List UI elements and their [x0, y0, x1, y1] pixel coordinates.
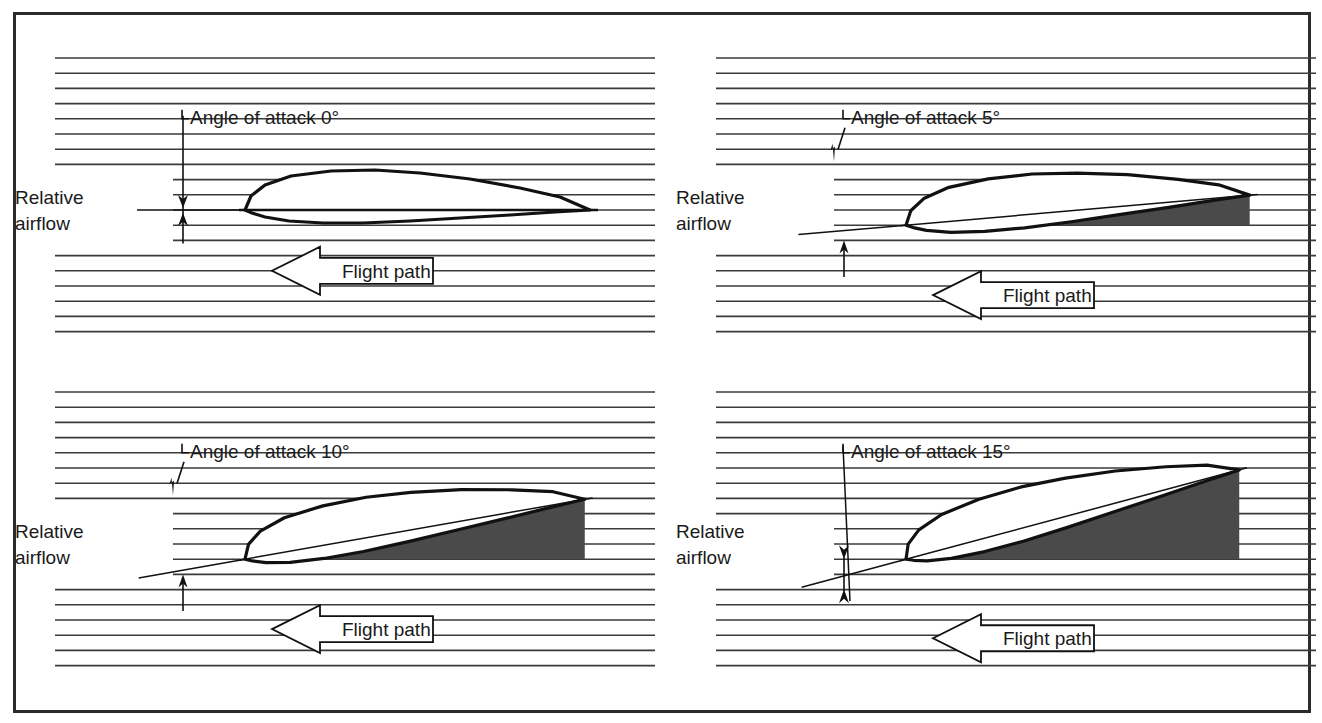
- flight-path-label: Flight path: [342, 619, 431, 640]
- relative-airflow-label-line2: airflow: [676, 547, 731, 568]
- label-hook: [843, 110, 850, 119]
- angle-of-attack-label: Angle of attack 5°: [851, 107, 1000, 128]
- flight-path-label: Flight path: [342, 261, 431, 282]
- angle-leader-arrowhead: [170, 477, 175, 495]
- relative-airflow-label-line1: Relative: [676, 187, 745, 208]
- chord-extension-line: [798, 225, 906, 234]
- aerofoil-section: [245, 170, 590, 223]
- relative-airflow-label-line1: Relative: [15, 187, 84, 208]
- flight-path-label: Flight path: [1003, 628, 1092, 649]
- relative-airflow-label-line1: Relative: [15, 521, 84, 542]
- label-hook: [843, 444, 850, 453]
- label-hook: [182, 444, 189, 453]
- angle-arrow-up: [839, 589, 849, 603]
- angle-of-attack-label: Angle of attack 15°: [851, 441, 1011, 462]
- panel-aoa-10: Angle of attack 10°RelativeairflowFlight…: [15, 392, 655, 666]
- angle-of-attack-figure: Angle of attack 0°RelativeairflowFlight …: [0, 0, 1322, 723]
- angle-leader-line: [838, 128, 845, 150]
- angle-leader-arrowhead: [831, 143, 836, 161]
- relative-airflow-label-line2: airflow: [15, 213, 70, 234]
- flight-path-label: Flight path: [1003, 285, 1092, 306]
- relative-airflow-label-line2: airflow: [676, 213, 731, 234]
- panel-aoa-0: Angle of attack 0°RelativeairflowFlight …: [15, 58, 655, 332]
- figure-root: Angle of attack 0°RelativeairflowFlight …: [0, 0, 1322, 723]
- relative-airflow-label-line1: Relative: [676, 521, 745, 542]
- panel-aoa-5: Angle of attack 5°RelativeairflowFlight …: [676, 58, 1316, 332]
- angle-of-attack-label: Angle of attack 10°: [190, 441, 350, 462]
- angle-of-attack-label: Angle of attack 0°: [190, 107, 339, 128]
- angle-leader-line: [177, 462, 184, 484]
- panel-aoa-15: Angle of attack 15°RelativeairflowFlight…: [676, 392, 1316, 666]
- relative-airflow-label-line2: airflow: [15, 547, 70, 568]
- chord-extension-line: [802, 559, 906, 587]
